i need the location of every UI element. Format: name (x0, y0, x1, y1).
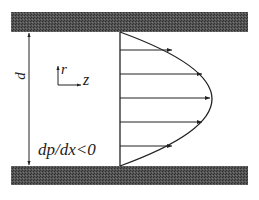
flow-diagram: d r z dp/dx<0 (0, 0, 259, 200)
gap-label: d (12, 72, 28, 80)
z-axis-label: z (82, 71, 90, 88)
r-axis-label: r (61, 61, 67, 77)
top-plate (11, 12, 248, 32)
pressure-gradient-label: dp/dx<0 (38, 140, 96, 159)
velocity-arrows (120, 50, 210, 146)
bottom-plate (11, 166, 248, 185)
